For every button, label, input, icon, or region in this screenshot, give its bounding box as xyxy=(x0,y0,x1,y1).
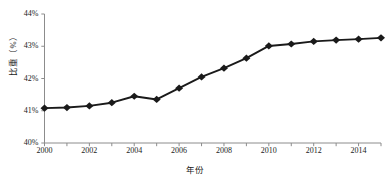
axis-lines xyxy=(45,14,382,143)
x-axis-title: 年份 xyxy=(0,163,389,175)
line-chart: 比重（%） 40%41%42%43%44% 200020022004200620… xyxy=(0,0,389,182)
plot-area xyxy=(0,0,389,182)
series-line xyxy=(45,38,382,108)
